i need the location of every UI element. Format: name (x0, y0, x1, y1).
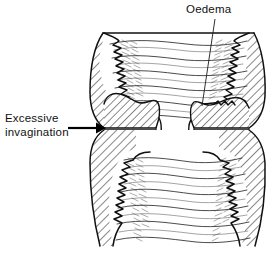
invagination-label-line1: Excessive (5, 112, 59, 124)
oedema-label: Oedema (186, 3, 232, 15)
invagination-label-line2: invagination (5, 126, 69, 138)
lower-segment (86, 126, 270, 250)
figure-root: Oedema Excessive invagination (0, 0, 280, 257)
anatomical-diagram: Oedema Excessive invagination (0, 0, 280, 257)
